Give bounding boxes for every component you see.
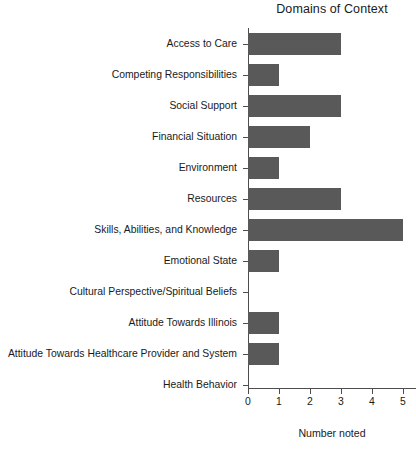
bar-chart: Domains of Context Access to CareCompeti… (0, 0, 416, 449)
x-axis-tick-label: 3 (331, 396, 351, 407)
plot-area (248, 28, 416, 388)
y-axis-tick (243, 199, 248, 200)
y-axis-tick-label: Access to Care (167, 36, 237, 52)
y-axis-tick (243, 261, 248, 262)
x-axis-tick (279, 389, 280, 394)
y-axis-tick-label: Competing Responsibilities (112, 67, 237, 83)
bar (248, 312, 279, 334)
y-axis-tick-label: Skills, Abilities, and Knowledge (94, 222, 237, 238)
bar (248, 95, 341, 117)
y-axis-tick (243, 385, 248, 386)
y-axis-tick (243, 168, 248, 169)
x-axis-tick-label: 4 (362, 396, 382, 407)
bar (248, 250, 279, 272)
y-axis-tick-label: Attitude Towards Illinois (129, 315, 237, 331)
x-axis-line (248, 388, 416, 389)
y-axis-tick (243, 75, 248, 76)
bar (248, 157, 279, 179)
y-axis-tick (243, 44, 248, 45)
bar (248, 64, 279, 86)
x-axis-tick-label: 2 (300, 396, 320, 407)
y-axis-tick-label: Social Support (169, 98, 237, 114)
x-axis-tick-label: 1 (269, 396, 289, 407)
bar (248, 219, 403, 241)
y-axis-tick (243, 354, 248, 355)
y-axis-tick-label: Attitude Towards Healthcare Provider and… (8, 346, 237, 362)
bar (248, 343, 279, 365)
bar (248, 33, 341, 55)
x-axis-tick (310, 389, 311, 394)
chart-title: Domains of Context (248, 2, 416, 16)
y-axis-tick-label: Health Behavior (163, 377, 237, 393)
x-axis-tick-label: 5 (393, 396, 413, 407)
y-axis-tick (243, 292, 248, 293)
y-axis-tick (243, 137, 248, 138)
x-axis-tick (248, 389, 249, 394)
y-axis-tick-label: Cultural Perspective/Spiritual Beliefs (70, 284, 237, 300)
x-axis-title: Number noted (248, 427, 416, 439)
bar (248, 126, 310, 148)
x-axis-tick (341, 389, 342, 394)
y-axis-tick (243, 323, 248, 324)
y-axis-tick-label: Emotional State (164, 253, 237, 269)
y-axis-tick (243, 230, 248, 231)
y-axis-tick-label: Resources (187, 191, 237, 207)
y-axis-tick-label: Financial Situation (152, 129, 237, 145)
y-axis-tick-label: Environment (179, 160, 237, 176)
x-axis-tick (372, 389, 373, 394)
y-axis-tick (243, 106, 248, 107)
x-axis-tick (403, 389, 404, 394)
x-axis-tick-label: 0 (238, 396, 258, 407)
bar (248, 188, 341, 210)
